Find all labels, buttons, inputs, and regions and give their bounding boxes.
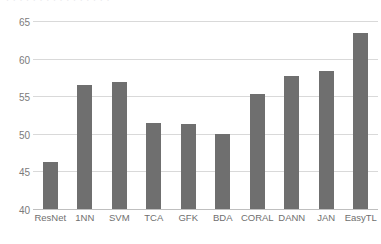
bar bbox=[215, 134, 230, 209]
bar-chart: 404550556065 ResNet1NNSVMTCAGFKBDACORALD… bbox=[0, 9, 381, 244]
plot-area bbox=[33, 22, 378, 210]
top-cropped-text-strip: · · · · · · · · · · · · · · · · bbox=[0, 0, 381, 9]
x-tick-label: ResNet bbox=[33, 212, 68, 223]
x-tick-label: GFK bbox=[171, 212, 206, 223]
bar bbox=[250, 94, 265, 208]
bar-slot bbox=[240, 22, 275, 209]
y-tick-label: 55 bbox=[0, 92, 30, 103]
bar bbox=[284, 76, 299, 208]
x-tick-label: JAN bbox=[309, 212, 344, 223]
bar-slot bbox=[206, 22, 241, 209]
y-tick-label: 45 bbox=[0, 167, 30, 178]
y-tick-label: 40 bbox=[0, 205, 30, 216]
x-axis-line bbox=[33, 209, 378, 210]
chart-screenshot: · · · · · · · · · · · · · · · · 40455055… bbox=[0, 0, 381, 244]
bar bbox=[146, 123, 161, 208]
x-tick-label: EasyTL bbox=[344, 212, 379, 223]
x-tick-label: SVM bbox=[102, 212, 137, 223]
x-tick-label: 1NN bbox=[68, 212, 103, 223]
y-tick-label: 60 bbox=[0, 54, 30, 65]
bar bbox=[77, 85, 92, 208]
bar-series bbox=[33, 22, 378, 209]
bar bbox=[43, 162, 58, 208]
bar-slot bbox=[171, 22, 206, 209]
bar-slot bbox=[102, 22, 137, 209]
x-tick-label: BDA bbox=[206, 212, 241, 223]
bar-slot bbox=[309, 22, 344, 209]
y-tick-label: 65 bbox=[0, 17, 30, 28]
bar-slot bbox=[137, 22, 172, 209]
x-tick-label: TCA bbox=[137, 212, 172, 223]
bar-slot bbox=[275, 22, 310, 209]
y-tick-label: 50 bbox=[0, 129, 30, 140]
bar bbox=[353, 33, 368, 208]
bar-slot bbox=[344, 22, 379, 209]
bar-slot bbox=[68, 22, 103, 209]
x-tick-label: CORAL bbox=[240, 212, 275, 223]
bar bbox=[112, 82, 127, 209]
bar bbox=[319, 71, 334, 209]
x-tick-label: DANN bbox=[275, 212, 310, 223]
x-axis-tick-labels: ResNet1NNSVMTCAGFKBDACORALDANNJANEasyTL bbox=[33, 212, 378, 223]
bar bbox=[181, 124, 196, 208]
cropped-text-ghost: · · · · · · · · · · · · · · · · bbox=[6, 0, 110, 5]
bar-slot bbox=[33, 22, 68, 209]
